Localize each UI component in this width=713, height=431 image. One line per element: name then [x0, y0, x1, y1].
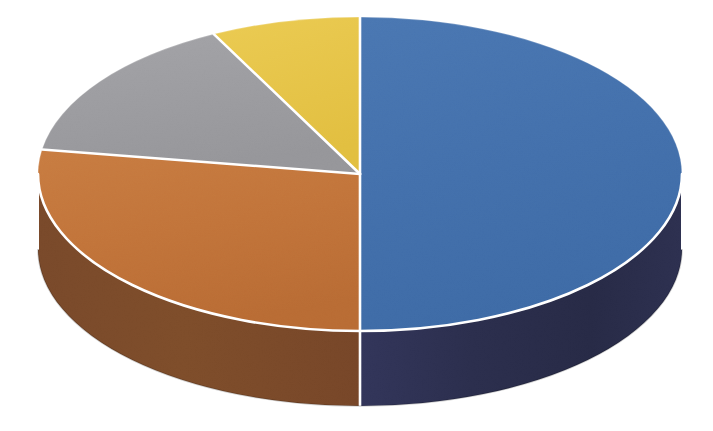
- pie-chart-canvas: [0, 0, 713, 431]
- paper-grain-overlay: [0, 0, 713, 431]
- pie-chart-figure: [0, 0, 713, 431]
